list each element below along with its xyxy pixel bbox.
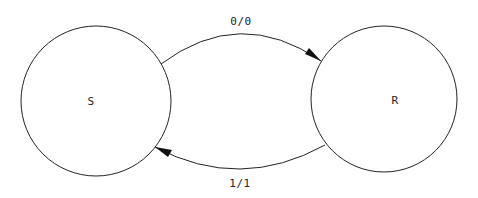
transition-r-to-s-arc <box>155 145 325 169</box>
transition-s-to-r-arc <box>161 34 321 64</box>
arrowhead-to-r-icon <box>305 48 321 61</box>
state-r-circle <box>311 26 457 172</box>
state-r-label: R <box>391 94 398 107</box>
arrowhead-to-s-icon <box>155 147 172 157</box>
transition-s-to-r-label: 0/0 <box>230 15 251 28</box>
transition-r-to-s-label: 1/1 <box>229 177 250 190</box>
state-s-label: S <box>87 95 94 108</box>
state-diagram <box>0 0 478 198</box>
state-s-circle <box>21 26 171 176</box>
